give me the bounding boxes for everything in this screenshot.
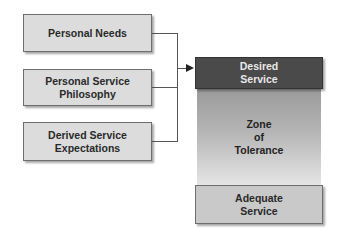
zone-label-2: of xyxy=(235,131,284,144)
zone-label-3: Tolerance xyxy=(235,144,284,157)
personal-needs-label: Personal Needs xyxy=(48,27,127,40)
desired-service-label-2: Service xyxy=(240,73,279,86)
connector-vertical xyxy=(177,33,178,142)
desired-service-label-1: Desired xyxy=(240,60,279,73)
personal-service-philosophy-label-1: Personal Service xyxy=(45,75,130,88)
connector-3 xyxy=(152,141,177,142)
personal-service-philosophy-label-2: Philosophy xyxy=(45,88,130,101)
connector-1 xyxy=(152,33,177,34)
zone-of-tolerance: Zone of Tolerance xyxy=(197,88,321,186)
derived-service-expectations-label-2: Expectations xyxy=(48,142,127,155)
zone-label-1: Zone xyxy=(235,118,284,131)
personal-service-philosophy-box: Personal Service Philosophy xyxy=(23,69,152,106)
personal-needs-box: Personal Needs xyxy=(23,14,152,52)
adequate-service-box: Adequate Service xyxy=(195,185,323,224)
derived-service-expectations-box: Derived Service Expectations xyxy=(23,122,152,161)
adequate-service-label-2: Service xyxy=(235,205,283,218)
arrow-right-icon xyxy=(186,64,194,72)
adequate-service-label-1: Adequate xyxy=(235,192,283,205)
desired-service-box: Desired Service xyxy=(195,57,323,89)
connector-2 xyxy=(152,87,177,88)
derived-service-expectations-label-1: Derived Service xyxy=(48,129,127,142)
